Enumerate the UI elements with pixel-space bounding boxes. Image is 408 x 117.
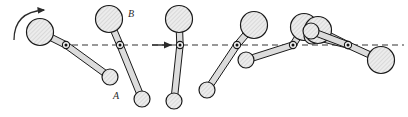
linkage-position-4-big-ball-disc [241, 12, 268, 39]
linkage-position-7-big-ball [368, 47, 395, 74]
linkage-position-2-pivot-center-dot [119, 44, 122, 47]
linkage-position-2-pivot [116, 41, 123, 48]
linkage-position-3-big-ball [166, 6, 193, 33]
linkage-position-7-small-ball-disc [303, 23, 319, 39]
linkage-position-3-pivot-center-dot [179, 44, 182, 47]
linkage-position-5-small-ball [238, 52, 254, 68]
label-big-ball-b: B [128, 8, 134, 19]
linkage-position-1-big-ball [27, 19, 54, 46]
label-small-ball-a: A [112, 90, 120, 101]
linkage-position-4-pivot [233, 41, 240, 48]
mechanics-figure: B A [0, 0, 408, 117]
linkage-position-4-big-ball [241, 12, 268, 39]
linkage-position-7 [303, 23, 395, 74]
linkage-sequence-diagram: B A [0, 0, 408, 117]
linkage-position-7-big-ball-disc [368, 47, 395, 74]
linkage-position-2-small-ball [134, 91, 150, 107]
linkage-position-2 [96, 6, 151, 108]
linkage-position-4-small-ball [199, 82, 215, 98]
linkage-position-7-small-ball [303, 23, 319, 39]
linkage-position-4-pivot-center-dot [236, 44, 239, 47]
linkage-position-7-pivot-center-dot [347, 44, 350, 47]
linkage-position-1-big-ball-disc [27, 19, 54, 46]
linkage-position-5-pivot-center-dot [292, 44, 295, 47]
linkage-position-2-big-ball [96, 6, 123, 33]
linkage-position-2-big-ball-disc [96, 6, 123, 33]
linkage-position-5-pivot [289, 41, 296, 48]
linkage-position-3 [166, 6, 193, 110]
linkage-position-3-big-ball-disc [166, 6, 193, 33]
linkage-position-1-pivot-center-dot [65, 44, 68, 47]
linkage-position-1-pivot [62, 41, 69, 48]
linkage-position-5-small-ball-disc [238, 52, 254, 68]
linkage-position-1-small-ball-disc [102, 69, 118, 85]
linkage-position-2-small-ball-disc [134, 91, 150, 107]
linkage-position-3-small-ball-disc [166, 93, 182, 109]
linkage-bodies-layer [27, 6, 395, 110]
linkage-position-1-small-ball [102, 69, 118, 85]
linkage-position-4-small-ball-disc [199, 82, 215, 98]
linkage-position-3-small-ball [166, 93, 182, 109]
linkage-position-3-pivot [176, 41, 183, 48]
linkage-position-7-pivot [344, 41, 351, 48]
